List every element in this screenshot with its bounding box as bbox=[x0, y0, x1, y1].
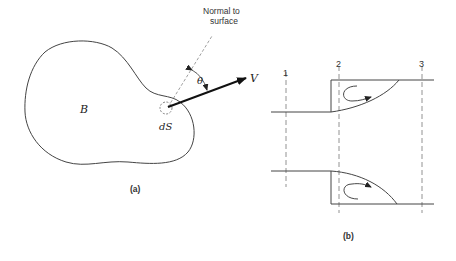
angle-label: θ bbox=[197, 75, 203, 86]
caption-a: (a) bbox=[130, 184, 141, 194]
figure-b: 1 2 3 (b) bbox=[271, 59, 434, 241]
caption-b: (b) bbox=[343, 231, 354, 241]
normal-line bbox=[168, 36, 212, 107]
upper-recirculation-arrow bbox=[344, 86, 371, 101]
normal-label-line1: Normal to bbox=[203, 6, 240, 16]
lower-shear-curve bbox=[331, 171, 397, 204]
surface-element-circle bbox=[160, 102, 172, 114]
upper-shear-curve bbox=[331, 80, 399, 112]
lower-wall bbox=[271, 171, 434, 204]
section-label-3: 3 bbox=[419, 59, 424, 69]
body-label: B bbox=[79, 103, 88, 116]
body-outline bbox=[25, 41, 194, 164]
section-label-1: 1 bbox=[283, 68, 288, 78]
figure-a: B dS θ V Normal to surface (a) bbox=[25, 6, 259, 194]
diagram-canvas: B dS θ V Normal to surface (a) 1 2 3 (b) bbox=[0, 0, 456, 261]
section-label-2: 2 bbox=[336, 59, 341, 69]
velocity-arrow bbox=[168, 78, 246, 107]
element-label: dS bbox=[159, 121, 172, 132]
normal-label-line2: surface bbox=[210, 16, 238, 26]
lower-recirculation-arrow bbox=[344, 184, 371, 199]
velocity-label: V bbox=[250, 72, 259, 85]
